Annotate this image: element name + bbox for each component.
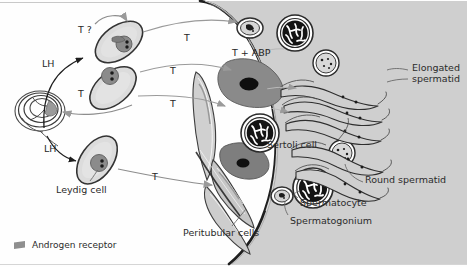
label-peritubular-cells: Peritubular cells [183,228,259,239]
hormone-label-t-mid2: T [170,98,176,109]
spermatocyte-upper [277,15,313,51]
leydig-cell-lower [68,129,125,192]
leydig-nucleus-lower [91,155,108,172]
label-sertoli-cell: Sertoli cell [267,140,317,151]
hormone-label-lh-upper: LH [42,58,54,69]
arrow-t-to-tubule-mid [140,64,231,72]
round-spermatid-upper [313,50,339,76]
pituitary-gland-ring [15,91,65,146]
label-round-spermatid: Round spermatid [365,175,446,186]
leydig-cell-middle [82,58,144,117]
arrow-t-to-peritubular [118,169,212,185]
hormone-label-lh-lower: LH [44,143,56,154]
hormone-label-t-question: T ? [78,24,92,35]
spermatogonium-lower [271,187,293,205]
sertoli-nucleus-upper [240,78,259,91]
label-spermatogonium: Spermatogonium [290,216,372,227]
hormone-label-t-mid: T [170,65,176,76]
testis-regulation-figure: T ? LH T LH T T T T T + ABP Elongated sp… [0,0,467,267]
spermatogonium-upper [237,18,263,38]
label-spermatocyte: Spermatocyte [300,198,367,209]
hormone-label-t-lower: T [152,171,158,182]
hormone-label-t-top-right: T [184,32,190,43]
label-elongated-spermatid: Elongated spermatid [412,63,460,84]
legend-androgen-receptor: Androgen receptor [14,240,116,250]
sertoli-nucleus-lower [237,158,250,167]
legend-androgen-receptor-label: Androgen receptor [32,240,116,250]
leydig-nucleus-middle [102,68,119,85]
label-leydig-cell: Leydig cell [56,185,107,196]
label-elongated-spermatid-line2: spermatid [412,74,460,85]
androgen-receptor-icon [14,241,25,249]
hormone-label-t-abp: T + ABP [232,47,271,58]
hormone-label-t-left: T [78,88,84,99]
arrow-t-to-tubule-top [143,20,236,32]
